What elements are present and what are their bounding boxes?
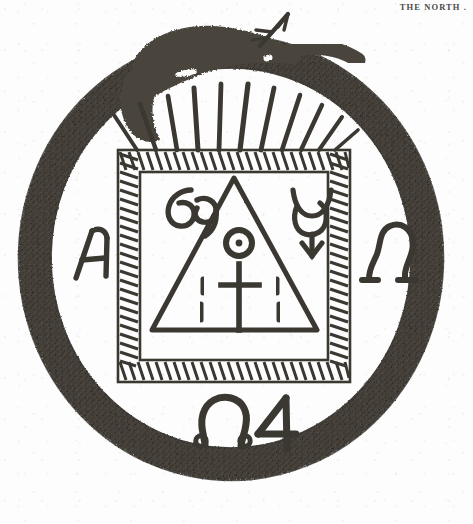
alpha-letter xyxy=(76,229,107,278)
cancer-symbol xyxy=(168,190,216,236)
emblem-plate xyxy=(0,0,473,524)
omega-symbol-bottom xyxy=(196,397,250,446)
emblem-illustration xyxy=(0,0,473,524)
frame-hatching xyxy=(120,152,349,380)
omega-letter xyxy=(362,224,416,280)
hatched-square-frame xyxy=(118,150,350,382)
mercury-symbol xyxy=(293,190,331,256)
tally-dashes-left xyxy=(201,279,203,320)
tally-dashes-right xyxy=(277,279,279,320)
latin-cross-symbol xyxy=(221,264,259,330)
sun-symbol xyxy=(226,230,252,256)
